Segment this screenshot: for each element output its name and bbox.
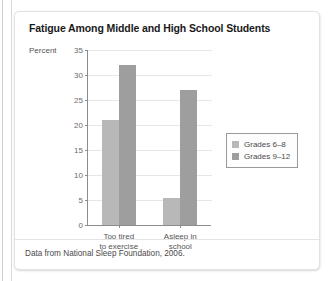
x-axis-tick-mark xyxy=(119,225,120,228)
chart-legend: Grades 6–8 Grades 9–12 xyxy=(226,133,298,168)
legend-swatch-icon xyxy=(232,153,239,160)
y-axis-tick-mark xyxy=(85,200,88,201)
legend-label: Grades 9–12 xyxy=(244,152,290,161)
y-axis-tick-label: 35 xyxy=(74,46,83,55)
y-axis-tick-mark xyxy=(85,125,88,126)
page-margin-rule-outer xyxy=(2,0,3,281)
chart-title: Fatigue Among Middle and High School Stu… xyxy=(29,22,270,34)
bar xyxy=(102,120,119,225)
x-axis-tick-mark xyxy=(180,225,181,228)
bar xyxy=(119,65,136,225)
y-gridline xyxy=(88,50,212,51)
y-gridline xyxy=(88,75,212,76)
bar xyxy=(163,198,180,226)
legend-item[interactable]: Grades 9–12 xyxy=(232,150,290,162)
figure-card: Fatigue Among Middle and High School Stu… xyxy=(14,11,320,270)
y-axis-tick-mark xyxy=(85,225,88,226)
y-axis-tick-label: 15 xyxy=(74,146,83,155)
y-axis-tick-mark xyxy=(85,150,88,151)
y-axis-unit-label: Percent xyxy=(29,46,57,55)
footer-divider xyxy=(15,239,320,240)
y-axis-tick-label: 25 xyxy=(74,96,83,105)
plot-wrapper: 05101520253035Too tiredto exerciseAsleep… xyxy=(87,50,211,226)
plot-area: 05101520253035Too tiredto exerciseAsleep… xyxy=(87,50,211,226)
legend-swatch-icon xyxy=(232,141,239,148)
page-margin-rule-inner xyxy=(11,0,12,281)
y-axis-tick-label: 30 xyxy=(74,71,83,80)
bar xyxy=(180,90,197,225)
y-axis-tick-mark xyxy=(85,175,88,176)
source-note: Data from National Sleep Foundation, 200… xyxy=(25,249,185,258)
legend-label: Grades 6–8 xyxy=(244,140,286,149)
legend-item[interactable]: Grades 6–8 xyxy=(232,138,290,150)
y-axis-tick-label: 5 xyxy=(79,196,83,205)
y-axis-tick-mark xyxy=(85,75,88,76)
y-axis-tick-label: 20 xyxy=(74,121,83,130)
y-axis-tick-label: 0 xyxy=(79,221,83,230)
y-axis-tick-label: 10 xyxy=(74,171,83,180)
y-axis-tick-mark xyxy=(85,100,88,101)
y-axis-tick-mark xyxy=(85,50,88,51)
